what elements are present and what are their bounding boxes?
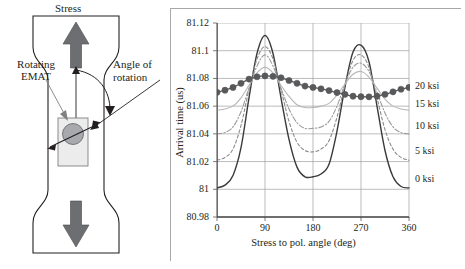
y-tick-label: 81.04: [175, 128, 209, 139]
data-point-marker: [238, 80, 244, 86]
data-point-marker: [342, 91, 348, 97]
schematic-svg: [0, 0, 170, 269]
y-tick-label: 81.12: [175, 17, 209, 28]
data-point-marker: [246, 76, 252, 82]
data-point-marker: [382, 91, 388, 97]
series-right-label: 10 ksi: [415, 120, 455, 131]
data-point-marker: [294, 80, 300, 86]
data-point-marker: [350, 93, 356, 99]
tensile-specimen-schematic: Stress Rotating EMAT Angle of rotation: [0, 0, 170, 269]
x-tick-label: 0: [202, 222, 232, 233]
x-tick-label: 90: [250, 222, 280, 233]
data-point-marker: [286, 77, 292, 83]
y-tick-label: 81: [175, 183, 209, 194]
series-right-label: 0 ksi: [415, 173, 455, 184]
data-point-marker: [278, 75, 284, 81]
data-point-marker: [366, 94, 372, 100]
data-point-marker: [358, 94, 364, 100]
x-tick-label: 270: [346, 222, 376, 233]
x-tick-label: 180: [298, 222, 328, 233]
y-tick-label: 81.02: [175, 156, 209, 167]
x-tick-label: 360: [394, 222, 424, 233]
series-right-label: 5 ksi: [415, 145, 455, 156]
rotation-arc-arrowhead-icon: [105, 106, 115, 116]
data-point-marker: [302, 83, 308, 89]
data-point-marker: [230, 84, 236, 90]
data-point-marker: [326, 88, 332, 94]
y-tick-label: 80.98: [175, 211, 209, 222]
plot-area-wrapper: Arrival time (us) Stress to pol. angle (…: [171, 9, 462, 262]
data-point-marker: [334, 89, 340, 95]
data-point-marker: [398, 86, 404, 92]
series-right-label: 20 ksi: [415, 80, 455, 91]
arrival-time-chart: Arrival time (us) Stress to pol. angle (…: [170, 8, 461, 261]
data-point-marker: [254, 74, 260, 80]
label-rotating-emat: Rotating EMAT: [7, 58, 65, 82]
data-point-marker: [390, 89, 396, 95]
label-stress: Stress: [55, 2, 81, 14]
data-point-marker: [318, 86, 324, 92]
data-point-marker: [270, 73, 276, 79]
data-point-marker: [262, 73, 268, 79]
emat-coil-icon: [63, 124, 84, 145]
data-point-marker: [374, 93, 380, 99]
series-right-label: 15 ksi: [415, 98, 455, 109]
x-axis-title: Stress to pol. angle (deg): [201, 237, 406, 248]
y-tick-label: 81.06: [175, 100, 209, 111]
y-tick-label: 81.08: [175, 72, 209, 83]
figure-root: Stress Rotating EMAT Angle of rotation A…: [0, 0, 465, 269]
data-point-marker: [222, 87, 228, 93]
data-point-marker: [310, 84, 316, 90]
y-tick-label: 81.1: [175, 45, 209, 56]
